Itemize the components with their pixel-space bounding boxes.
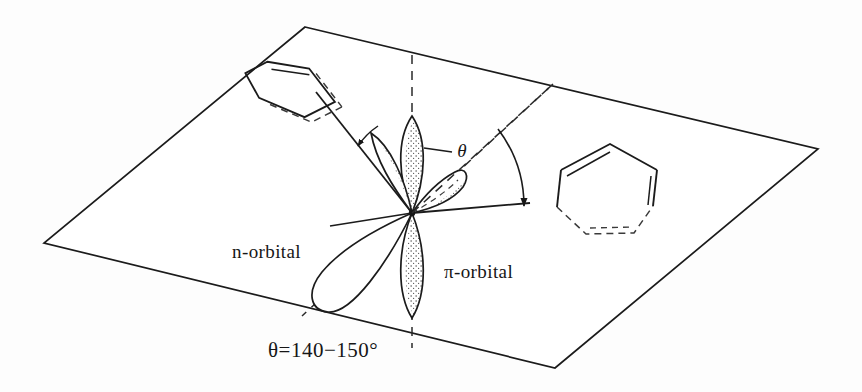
n-orbital-label: n-orbital xyxy=(232,241,301,262)
theta-angle-label: θ xyxy=(457,140,466,161)
pi-orbital-label: π-orbital xyxy=(444,261,513,282)
figure-caption: θ=140−150° xyxy=(268,338,378,362)
orbital-diagram-figure: θ n-orbital π-orbital θ=140−150° xyxy=(0,0,862,392)
diagram-canvas: θ n-orbital π-orbital θ=140−150° xyxy=(0,0,862,392)
